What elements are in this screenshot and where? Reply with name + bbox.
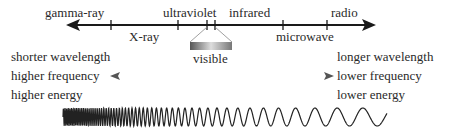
right-property-frequency: lower frequency bbox=[337, 69, 422, 83]
label-x-ray: X-ray bbox=[129, 30, 159, 44]
label-gamma-ray: gamma-ray bbox=[45, 6, 104, 20]
left-property-energy: higher energy bbox=[11, 88, 83, 102]
visible-zoom-line-right bbox=[215, 27, 232, 42]
label-ultraviolet: ultraviolet bbox=[163, 6, 216, 20]
left-property-wavelength: shorter wavelength bbox=[11, 50, 110, 64]
label-microwave: microwave bbox=[276, 30, 334, 44]
em-wave bbox=[63, 108, 387, 126]
left-property-frequency: higher frequency bbox=[11, 69, 99, 83]
right-property-energy: lower energy bbox=[337, 88, 405, 102]
label-visible: visible bbox=[193, 52, 228, 66]
visible-zoom-line-left bbox=[190, 27, 207, 42]
right-property-wavelength: longer wavelength bbox=[337, 50, 433, 64]
label-radio: radio bbox=[331, 6, 358, 20]
label-infrared: infrared bbox=[229, 6, 270, 20]
visible-band bbox=[190, 42, 232, 50]
